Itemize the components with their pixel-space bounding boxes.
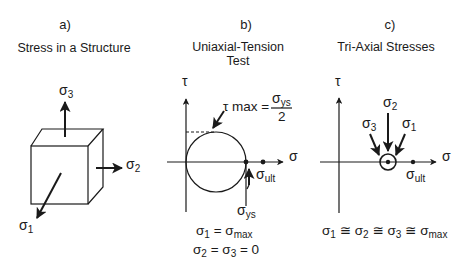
sigma1-label: σ1 — [402, 115, 417, 133]
panel-b-title-line2: Test — [227, 54, 250, 68]
sigma3-label: σ3 — [362, 115, 377, 133]
sigma2-label: σ2 — [126, 156, 141, 174]
panel-a-title: Stress in a Structure — [17, 41, 130, 55]
sigma1-arrow-icon — [37, 173, 61, 218]
sigma-axis-label: σ — [289, 148, 298, 164]
sigma3-arrow-icon — [370, 134, 379, 155]
sigma-ys-point — [244, 160, 249, 165]
sigma1-arrow-icon — [396, 134, 405, 155]
tau-axis-label: τ — [335, 73, 341, 89]
panel-a-label: a) — [59, 17, 71, 32]
tau-max-numerator: σys — [272, 90, 291, 108]
panel-b-label: b) — [240, 17, 252, 32]
sigma-ult-label: σult — [406, 166, 425, 184]
panel-c-label: c) — [385, 17, 396, 32]
sigma-ult-point — [261, 160, 266, 165]
sigma1-label: σ1 — [19, 217, 34, 235]
sigma-axis-label: σ — [442, 148, 451, 164]
sigma-ult-label: σult — [256, 166, 275, 184]
sigma3-label: σ3 — [59, 82, 74, 100]
tau-max-denominator: 2 — [278, 109, 286, 124]
panel-b: b) Uniaxial-Tension Test τ σ τ max = σys… — [167, 17, 298, 259]
panel-c: c) Tri-Axial Stresses τ σ σ2 σ3 σ1 σult … — [320, 17, 451, 240]
tau-axis-label: τ — [182, 73, 188, 89]
cube-icon — [31, 129, 103, 204]
sigma-ult-point — [411, 160, 415, 164]
sigma2-label: σ2 — [383, 94, 398, 112]
equation-1: σ1 = σmax — [196, 223, 253, 240]
panel-c-title: Tri-Axial Stresses — [337, 40, 434, 54]
tau-max-label: τ max = — [223, 99, 269, 114]
stress-diagram: a) Stress in a Structure σ3 σ2 σ1 b) Uni… — [0, 0, 460, 269]
panel-a: a) Stress in a Structure σ3 σ2 σ1 — [17, 17, 140, 235]
center-point — [386, 160, 390, 164]
equation-2: σ2 = σ3 = 0 — [193, 242, 259, 259]
panel-b-title-line1: Uniaxial-Tension — [192, 40, 284, 54]
equation: σ1 ≅ σ2 ≅ σ3 ≅ σmax — [322, 223, 447, 240]
